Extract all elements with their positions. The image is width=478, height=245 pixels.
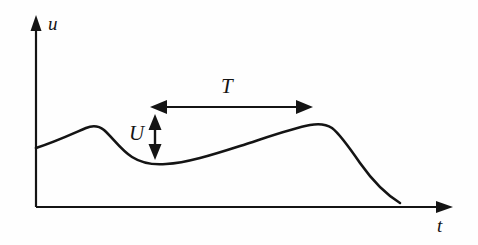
x-axis-label: t (437, 216, 442, 235)
y-axis (31, 15, 42, 207)
waveform-curve (36, 124, 400, 203)
x-axis-arrowhead-icon (436, 201, 453, 213)
period-arrow-right-head-icon (296, 100, 313, 114)
period-arrow-left-head-icon (150, 100, 167, 114)
amplitude-label: U (129, 123, 144, 144)
amplitude-arrow-bottom-head-icon (149, 144, 162, 160)
y-axis-label: u (48, 14, 58, 33)
period-label: T (221, 76, 233, 97)
y-axis-arrowhead-icon (31, 15, 42, 31)
amplitude-arrow-top-head-icon (149, 114, 162, 130)
amplitude-arrow (149, 114, 162, 160)
signal-path (36, 124, 400, 203)
period-arrow (150, 100, 313, 114)
figure-canvas: u t T U (0, 0, 478, 245)
waveform-diagram (0, 0, 478, 245)
x-axis (36, 201, 453, 213)
